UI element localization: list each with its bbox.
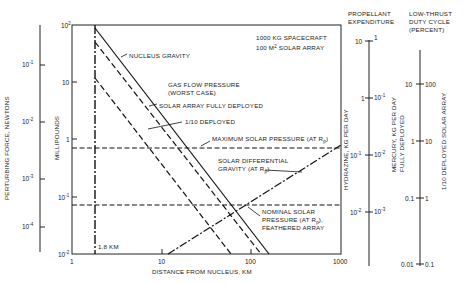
label-gas-flow-2: (WORST CASE) [168, 89, 216, 96]
svg-text:1000: 1000 [333, 258, 348, 265]
duty-cycle-axis: LOW-THRUST DUTY CYCLE (PERCENT) 10 1 0.1… [398, 10, 452, 268]
newton-tick: 10-4 [22, 222, 34, 230]
label-max-solar-pressure: MAXIMUM SOLAR PRESSURE (AT Rp) [212, 135, 328, 144]
annotation-spacecraft: 1000 KG SPACECRAFT [256, 34, 327, 41]
hydrazine-axis-label: HYDRAZINE, KG PER DAY [342, 109, 349, 190]
label-fully-deployed: SOLAR ARRAY FULLY DEPLOYED [159, 102, 263, 109]
mercury-axis-label: MERCURY, KG PER DAY [390, 97, 397, 172]
svg-text:DUTY CYCLE: DUTY CYCLE [409, 18, 450, 25]
svg-text:1: 1 [361, 95, 365, 102]
label-gas-flow-1: GAS FLOW PRESSURE [168, 81, 240, 88]
annotation-array: 100 M2 SOLAR ARRAY [256, 44, 324, 52]
svg-text:10-1: 10-1 [350, 151, 362, 159]
newtons-axis: 10-1 10-2 10-3 10-4 PERTURBING FORCE, NE… [3, 25, 45, 252]
svg-text:1: 1 [374, 34, 378, 41]
label-nominal-1: NOMINAL SOLAR [262, 208, 316, 215]
svg-text:100: 100 [425, 81, 436, 88]
newtons-axis-label: PERTURBING FORCE, NEWTONS [3, 96, 10, 200]
millipounds-axis-label: MILLIPOUNDS [53, 116, 60, 160]
svg-text:0.1: 0.1 [425, 261, 434, 268]
svg-text:0.01: 0.01 [401, 261, 414, 268]
svg-text:10-1: 10-1 [58, 193, 70, 201]
newton-tick: 10-1 [22, 60, 34, 68]
label-nucleus-gravity: NUCLEUS GRAVITY [129, 52, 190, 59]
chart-svg: 10-1 10-2 10-3 10-4 PERTURBING FORCE, NE… [0, 0, 464, 284]
label-sdg-1: SOLAR DIFFERENTIAL [218, 157, 289, 164]
svg-text:1: 1 [66, 136, 70, 143]
svg-text:LOW-THRUST: LOW-THRUST [409, 10, 452, 17]
svg-text:1: 1 [70, 258, 74, 265]
svg-text:10: 10 [425, 138, 433, 145]
svg-text:102: 102 [61, 21, 71, 29]
y-ticks: 102 10 1 10-1 10-2 [58, 21, 77, 258]
propellant-axis: PROPELLANT EXPENDITURE 10 1 10-1 10-2 1 … [342, 10, 397, 266]
svg-text:1: 1 [411, 138, 415, 145]
svg-text:10: 10 [158, 258, 166, 265]
x-axis-label: DISTANCE FROM NUCLEUS, KM [152, 268, 252, 275]
label-nominal-3: FEATHERED ARRAY [262, 224, 324, 231]
x-ticks: 1 10 100 1000 DISTANCE FROM NUCLEUS, KM [70, 249, 348, 275]
newton-tick: 10-2 [22, 117, 34, 125]
svg-text:10-2: 10-2 [374, 150, 386, 158]
svg-text:0.1: 0.1 [405, 195, 414, 202]
newton-tick: 10-3 [22, 174, 34, 182]
fully-deployed-axis-label: FULLY DEPLOYED [398, 115, 405, 172]
svg-text:10: 10 [405, 81, 413, 88]
label-1-8-km: 1.8 KM [98, 243, 119, 250]
svg-text:10-1: 10-1 [374, 93, 386, 101]
svg-text:1: 1 [425, 195, 429, 202]
svg-text:10-2: 10-2 [58, 250, 70, 258]
label-sdg-2: GRAVITY (AT Rp) [218, 165, 269, 174]
svg-text:10: 10 [355, 38, 363, 45]
svg-text:EXPENDITURE: EXPENDITURE [348, 18, 394, 25]
svg-text:10: 10 [62, 79, 70, 86]
tenth-deployed-axis-label: 1/10 DEPLOYED SOLAR ARRAY [440, 93, 447, 190]
svg-text:PROPELLANT: PROPELLANT [348, 10, 391, 17]
svg-text:10-2: 10-2 [350, 208, 362, 216]
svg-text:100: 100 [245, 258, 256, 265]
svg-text:(PERCENT): (PERCENT) [409, 26, 445, 33]
svg-text:10-3: 10-3 [374, 207, 386, 215]
label-tenth-deployed: 1/10 DEPLOYED [185, 118, 235, 125]
